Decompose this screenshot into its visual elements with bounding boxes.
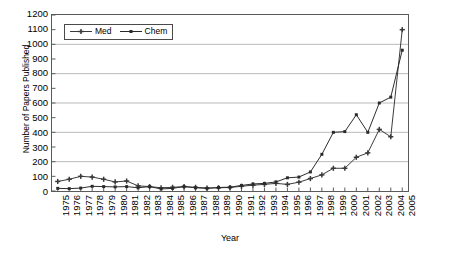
- y-tick-label: 400: [32, 128, 48, 138]
- x-axis-title: Year: [51, 233, 409, 243]
- series-med: [55, 27, 405, 191]
- x-tick-label: 1981: [130, 195, 140, 216]
- y-axis-tick-labels: 0100200300400500600700800900100011001200: [18, 14, 48, 192]
- x-tick-label: 2002: [373, 195, 383, 216]
- x-tick-label: 1997: [315, 195, 325, 216]
- y-tick-label: 600: [32, 98, 48, 108]
- y-tick-label: 300: [32, 143, 48, 153]
- legend-swatch-plus-icon: [70, 27, 92, 36]
- x-tick-label: 1996: [303, 195, 313, 216]
- data-series-layer: [52, 15, 408, 191]
- plot-area: MedChem: [51, 14, 409, 192]
- legend-label: Chem: [144, 27, 168, 36]
- legend-entry-chem: Chem: [120, 27, 168, 36]
- series-chem: [56, 49, 403, 191]
- legend-swatch-square-icon: [120, 27, 142, 36]
- x-tick-label: 1979: [107, 195, 117, 216]
- legend-label: Med: [94, 27, 112, 36]
- legend-entry-med: Med: [70, 27, 112, 36]
- x-tick-label: 1975: [61, 195, 71, 216]
- x-tick-label: 1978: [95, 195, 105, 216]
- y-tick-label: 1000: [27, 39, 48, 49]
- x-axis-tick-labels: 1975197619771978197919801981198219831984…: [51, 195, 409, 229]
- y-tick-label: 200: [32, 158, 48, 168]
- y-tick-label: 100: [32, 172, 48, 182]
- y-tick-label: 800: [32, 69, 48, 79]
- x-tick-label: 1990: [234, 195, 244, 216]
- x-tick-label: 2005: [407, 195, 417, 216]
- y-tick-label: 500: [32, 113, 48, 123]
- y-tick-label: 900: [32, 54, 48, 64]
- x-tick-label: 1986: [188, 195, 198, 216]
- chart-legend: MedChem: [64, 24, 173, 40]
- y-tick-label: 1100: [28, 24, 48, 34]
- x-tick-label: 1991: [246, 195, 256, 216]
- x-tick-label: 1993: [269, 195, 279, 216]
- series-line: [58, 50, 403, 189]
- series-markers: [55, 27, 405, 191]
- y-tick-label: 0: [43, 187, 48, 197]
- x-tick-label: 2003: [384, 195, 394, 216]
- x-tick-label: 2001: [361, 195, 371, 216]
- chart-figure: Number of Papers Published 0100200300400…: [0, 0, 454, 256]
- series-line: [58, 30, 403, 188]
- x-tick-label: 1989: [222, 195, 232, 216]
- y-tick-label: 1200: [27, 9, 48, 19]
- x-tick-label: 2000: [349, 195, 359, 216]
- series-markers: [56, 49, 403, 191]
- x-tick-label: 1982: [142, 195, 152, 216]
- x-tick-label: 1985: [176, 195, 186, 216]
- x-tick-label: 1983: [153, 195, 163, 216]
- x-tick-label: 1987: [199, 195, 209, 216]
- x-tick-label: 1999: [338, 195, 348, 216]
- x-tick-label: 1984: [165, 195, 175, 216]
- x-tick-label: 1995: [292, 195, 302, 216]
- x-tick-label: 1976: [72, 195, 82, 216]
- x-tick-label: 1992: [257, 195, 267, 216]
- y-tick-label: 700: [32, 83, 48, 93]
- x-tick-label: 1980: [119, 195, 129, 216]
- x-tick-label: 1977: [84, 195, 94, 216]
- x-tick-label: 1988: [211, 195, 221, 216]
- x-tick-label: 1994: [280, 195, 290, 216]
- x-tick-label: 2004: [396, 195, 406, 216]
- x-tick-label: 1998: [326, 195, 336, 216]
